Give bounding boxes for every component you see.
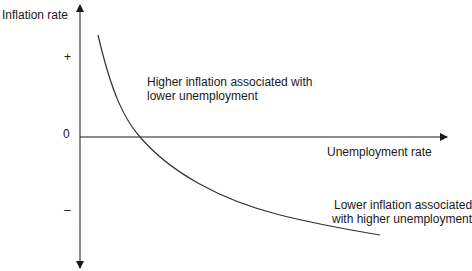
y-tick-zero: 0 xyxy=(63,127,70,141)
annotation-high-line1: Higher inflation associated with xyxy=(147,75,312,89)
x-axis-title: Unemployment rate xyxy=(327,145,432,159)
y-axis-title: Inflation rate xyxy=(2,8,68,22)
annotation-low-line2: with higher unemployment xyxy=(332,212,472,226)
annotation-high-line2: lower unemployment xyxy=(147,89,312,103)
annotation-high-inflation: Higher inflation associated with lower u… xyxy=(147,75,312,103)
annotation-low-line1: Lower inflation associated xyxy=(332,198,472,212)
y-tick-plus: + xyxy=(64,50,71,64)
y-tick-minus: – xyxy=(64,203,71,217)
annotation-low-inflation: Lower inflation associated with higher u… xyxy=(332,198,472,226)
